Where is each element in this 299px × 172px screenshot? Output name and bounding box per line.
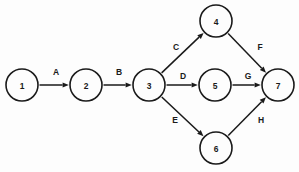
node-label-6: 6 bbox=[214, 144, 219, 154]
edge-line-c bbox=[162, 37, 199, 73]
arrowhead-icon bbox=[255, 82, 261, 87]
edge-label-b: B bbox=[116, 67, 122, 77]
node-2[interactable]: 2 bbox=[70, 69, 102, 101]
edge-c bbox=[162, 33, 204, 73]
edge-label-h: H bbox=[258, 115, 264, 125]
node-label-2: 2 bbox=[84, 81, 89, 91]
node-7[interactable]: 7 bbox=[262, 69, 294, 101]
arrowhead-icon bbox=[63, 82, 69, 87]
node-label-4: 4 bbox=[214, 17, 219, 27]
node-label-1: 1 bbox=[20, 81, 25, 91]
edge-d bbox=[167, 82, 198, 87]
node-1[interactable]: 1 bbox=[6, 69, 38, 101]
directed-graph: 1234567 ABCDEFGH bbox=[0, 0, 299, 172]
edge-line-h bbox=[228, 102, 261, 136]
node-label-3: 3 bbox=[147, 81, 152, 91]
edge-line-e bbox=[162, 97, 199, 132]
edge-label-c: C bbox=[173, 42, 179, 52]
node-5[interactable]: 5 bbox=[199, 69, 231, 101]
edge-b bbox=[104, 82, 132, 87]
node-6[interactable]: 6 bbox=[200, 132, 232, 164]
edge-e bbox=[162, 97, 204, 136]
node-label-5: 5 bbox=[213, 81, 218, 91]
arrowhead-icon bbox=[126, 82, 132, 87]
edge-label-g: G bbox=[245, 71, 252, 81]
arrowhead-icon bbox=[192, 82, 198, 87]
edge-label-f: F bbox=[257, 42, 262, 52]
node-label-7: 7 bbox=[276, 81, 281, 91]
node-4[interactable]: 4 bbox=[200, 5, 232, 37]
edge-f bbox=[228, 34, 266, 73]
edge-label-e: E bbox=[172, 115, 178, 125]
edge-label-d: D bbox=[180, 71, 186, 81]
edge-g bbox=[233, 82, 261, 87]
edge-a bbox=[40, 82, 69, 87]
edge-label-a: A bbox=[53, 67, 59, 77]
node-3[interactable]: 3 bbox=[133, 69, 165, 101]
diagram-canvas: 1234567 ABCDEFGH bbox=[0, 0, 299, 172]
